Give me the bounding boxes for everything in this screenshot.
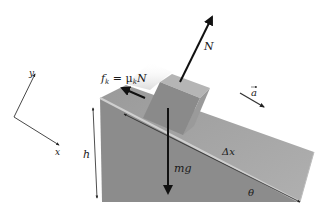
coordinate-axes: y x (14, 68, 60, 157)
displacement-label: Δx (221, 146, 235, 157)
height-label: h (83, 148, 90, 161)
y-axis-label: y (28, 68, 35, 78)
incline-diagram: y x Δx h θ N mg fk = μkN a (0, 0, 333, 215)
acceleration-label: a (251, 87, 257, 98)
friction-label: fk = μkN (100, 72, 147, 86)
x-axis-label: x (55, 147, 60, 157)
angle-label: θ (248, 187, 254, 198)
y-axis-arrow (14, 74, 35, 117)
svg-text:fk = μkN: fk = μkN (100, 72, 147, 86)
x-axis-arrow (14, 117, 59, 145)
normal-force-label: N (203, 40, 214, 53)
weight-label: mg (174, 162, 191, 175)
height-arrow (93, 108, 97, 198)
